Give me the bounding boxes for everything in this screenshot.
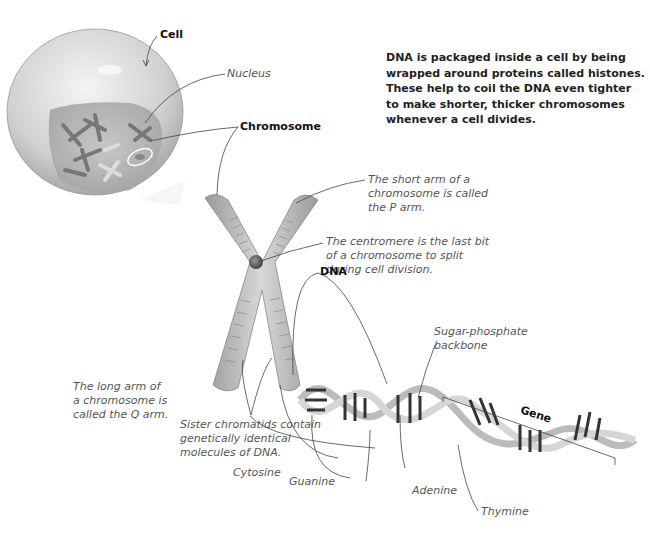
label-cytosine: Cytosine <box>233 466 281 480</box>
label-thymine: Thymine <box>481 505 529 519</box>
label-q-arm: The long arm of a chromosome is called t… <box>73 380 168 422</box>
chromosome-illustration <box>205 194 318 390</box>
label-guanine: Guanine <box>289 475 335 489</box>
label-backbone: Sugar-phosphate backbone <box>434 325 528 353</box>
label-nucleus: Nucleus <box>227 67 271 81</box>
cell-illustration <box>7 29 185 205</box>
label-cell: Cell <box>160 28 183 41</box>
label-chromosome: Chromosome <box>240 120 321 133</box>
label-dna: DNA <box>320 265 347 278</box>
label-sister-chromatids: Sister chromatids contain genetically id… <box>180 418 321 460</box>
label-adenine: Adenine <box>412 484 457 498</box>
dna-helix-illustration <box>300 389 635 452</box>
label-centromere: The centromere is the last bit of a chro… <box>326 235 489 277</box>
label-p-arm: The short arm of a chromosome is called … <box>368 173 488 215</box>
intro-paragraph: DNA is packaged inside a cell by being w… <box>386 50 646 128</box>
